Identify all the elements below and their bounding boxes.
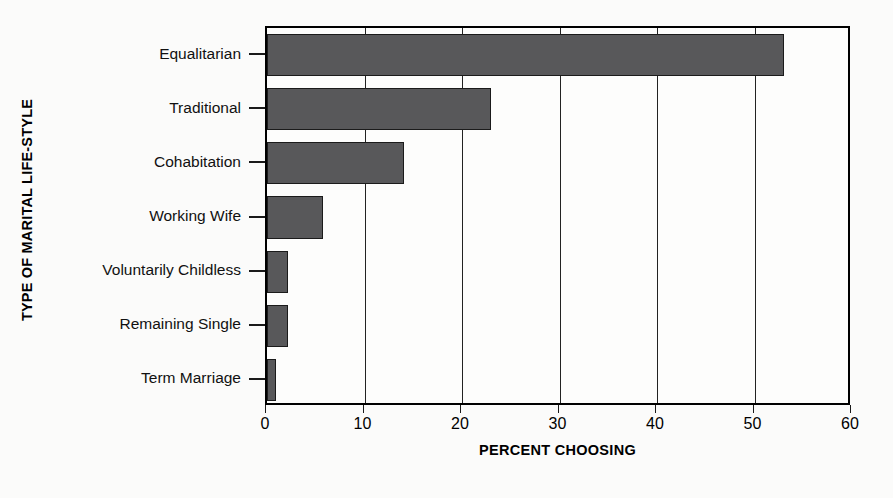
category-label: Equalitarian xyxy=(36,45,241,62)
x-tick-label: 50 xyxy=(723,414,783,434)
x-tick-label: 0 xyxy=(235,414,295,434)
gridline xyxy=(560,28,561,403)
category-label: Term Marriage xyxy=(36,369,241,386)
gridline xyxy=(365,28,366,403)
x-axis-title: PERCENT CHOOSING xyxy=(265,442,850,458)
bar xyxy=(267,196,323,238)
category-label: Traditional xyxy=(36,99,241,116)
x-axis-tick-labels: 0102030405060 xyxy=(265,414,850,436)
y-tick xyxy=(249,270,265,272)
y-tick xyxy=(249,378,265,380)
x-tick-label: 60 xyxy=(820,414,880,434)
y-tick xyxy=(249,53,265,55)
x-tick-label: 10 xyxy=(333,414,393,434)
y-axis-tick-marks xyxy=(249,26,266,405)
bar xyxy=(267,34,784,76)
bar xyxy=(267,359,276,401)
y-tick xyxy=(249,107,265,109)
x-tick xyxy=(265,405,266,413)
x-tick-label: 20 xyxy=(430,414,490,434)
gridline xyxy=(462,28,463,403)
bar xyxy=(267,305,288,347)
gridline xyxy=(657,28,658,403)
x-tick xyxy=(655,405,656,413)
x-tick-label: 30 xyxy=(528,414,588,434)
category-label: Working Wife xyxy=(36,207,241,224)
category-label: Remaining Single xyxy=(36,315,241,332)
x-tick xyxy=(753,405,754,413)
category-label-column: EqualitarianTraditionalCohabitationWorki… xyxy=(36,26,241,405)
category-label: Cohabitation xyxy=(36,153,241,170)
y-tick xyxy=(249,161,265,163)
bar xyxy=(267,142,404,184)
y-tick xyxy=(249,216,265,218)
gridline xyxy=(755,28,756,403)
x-tick xyxy=(850,405,851,413)
category-label: Voluntarily Childless xyxy=(36,261,241,278)
x-tick-label: 40 xyxy=(625,414,685,434)
plot-inner xyxy=(267,28,848,403)
x-tick xyxy=(460,405,461,413)
plot-area xyxy=(265,26,850,405)
x-tick xyxy=(558,405,559,413)
bar xyxy=(267,88,491,130)
x-axis-tick-marks xyxy=(265,405,850,414)
bar xyxy=(267,251,288,293)
bar-chart-figure: TYPE OF MARITAL LIFE-STYLE EqualitarianT… xyxy=(0,0,893,498)
y-tick xyxy=(249,324,265,326)
x-tick xyxy=(363,405,364,413)
